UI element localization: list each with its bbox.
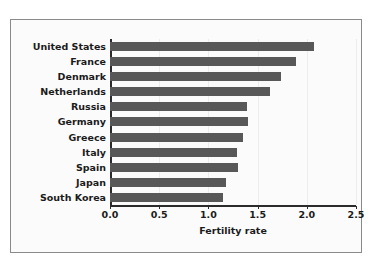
bar-row [110, 145, 356, 160]
bar-row [110, 160, 356, 175]
x-tick-label: 1.0 [188, 209, 228, 220]
bar [110, 117, 248, 126]
bar [110, 133, 243, 142]
bar-row [110, 39, 356, 54]
bar-row [110, 69, 356, 84]
category-label: Italy [0, 145, 106, 160]
x-tick-label: 0.0 [90, 209, 130, 220]
category-label: South Korea [0, 190, 106, 205]
category-label: Spain [0, 160, 106, 175]
category-label: Japan [0, 175, 106, 190]
chart-screenshot: United StatesFranceDenmarkNetherlandsRus… [0, 0, 383, 265]
gridline [356, 39, 357, 205]
x-tick-label: 0.5 [139, 209, 179, 220]
bar-row [110, 54, 356, 69]
category-label: Denmark [0, 69, 106, 84]
bar-row [110, 175, 356, 190]
bar [110, 178, 226, 187]
category-label: United States [0, 39, 106, 54]
bar [110, 102, 247, 111]
bar [110, 57, 296, 66]
bar [110, 163, 238, 172]
bar [110, 87, 270, 96]
bar [110, 193, 223, 202]
bar [110, 42, 314, 51]
x-axis-line [110, 205, 356, 207]
bar [110, 148, 237, 157]
x-axis-title: Fertility rate [110, 225, 356, 236]
category-label: Germany [0, 114, 106, 129]
bar [110, 72, 281, 81]
x-tick-label: 1.5 [238, 209, 278, 220]
category-label: Russia [0, 99, 106, 114]
category-label: Netherlands [0, 84, 106, 99]
category-label: France [0, 54, 106, 69]
category-label: Greece [0, 130, 106, 145]
bar-row [110, 190, 356, 205]
x-tick-label: 2.0 [287, 209, 327, 220]
bar-row [110, 99, 356, 114]
bar-row [110, 84, 356, 99]
x-tick-label: 2.5 [336, 209, 376, 220]
bar-row [110, 130, 356, 145]
bar-row [110, 114, 356, 129]
